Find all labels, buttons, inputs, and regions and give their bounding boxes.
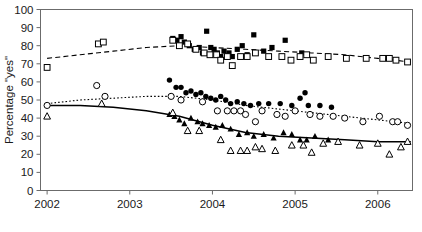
x-tick-label: 2006 <box>365 198 391 210</box>
data-point-open-square <box>310 57 316 63</box>
data-point-filled-triangle <box>188 115 194 121</box>
data-point-open-square <box>288 57 294 63</box>
data-point-open-triangle <box>98 100 105 106</box>
data-point-open-triangle <box>320 140 327 146</box>
x-tick-label: 2003 <box>117 198 143 210</box>
data-point-open-square <box>218 57 224 63</box>
data-point-open-triangle <box>244 147 251 153</box>
y-tick-label: 50 <box>21 94 34 106</box>
data-point-open-square <box>343 55 349 61</box>
data-point-open-square <box>380 55 386 61</box>
data-point-filled-square <box>261 49 266 54</box>
data-point-open-triangle <box>300 142 307 148</box>
trend-lines <box>47 46 411 142</box>
data-point-filled-triangle <box>280 129 286 135</box>
data-point-open-triangle <box>356 142 363 148</box>
data-point-open-triangle <box>386 151 393 157</box>
y-tick-label: 60 <box>21 76 34 88</box>
chart-figure: 0102030405060708090100 20022003200420052… <box>0 0 422 232</box>
data-point-open-circle <box>360 119 366 125</box>
data-point-open-square <box>176 43 182 49</box>
data-point-open-circle <box>178 97 184 103</box>
data-point-open-square <box>325 54 331 60</box>
data-point-open-circle <box>330 113 336 119</box>
y-tick-label: 80 <box>21 40 34 52</box>
data-point-filled-circle <box>278 101 283 106</box>
data-point-filled-square <box>178 34 183 39</box>
data-point-filled-circle <box>208 95 213 100</box>
data-point-open-circle <box>102 93 108 99</box>
data-point-filled-circle <box>193 92 198 97</box>
y-axis-title: Percentage "yes" <box>3 56 15 144</box>
x-axis-ticks: 20022003200420052006 <box>34 191 390 210</box>
x-tick-label: 2005 <box>282 198 308 210</box>
data-point-filled-circle <box>241 101 246 106</box>
data-point-filled-triangle <box>219 122 225 128</box>
y-tick-label: 100 <box>14 4 33 16</box>
data-point-open-circle <box>395 119 401 125</box>
data-point-open-circle <box>199 99 205 105</box>
data-point-open-square <box>279 54 285 60</box>
y-tick-label: 40 <box>21 112 34 124</box>
data-point-open-triangle <box>272 147 279 153</box>
y-tick-label: 20 <box>21 148 34 160</box>
data-point-filled-circle <box>256 101 261 106</box>
data-point-open-circle <box>224 108 230 114</box>
data-point-open-circle <box>242 111 248 117</box>
data-point-filled-circle <box>235 99 240 104</box>
data-point-open-square <box>266 54 272 60</box>
data-point-open-square <box>224 54 230 60</box>
data-point-filled-square <box>269 45 274 50</box>
data-point-open-triangle <box>184 127 191 133</box>
data-point-filled-square <box>204 29 209 34</box>
data-point-open-triangle <box>308 149 315 155</box>
y-axis-ticks: 0102030405060708090100 <box>14 4 40 197</box>
data-point-open-square <box>100 39 106 45</box>
data-point-open-triangle <box>252 143 259 149</box>
data-point-filled-square <box>235 47 240 52</box>
y-tick-label: 70 <box>21 58 34 70</box>
data-point-filled-circle <box>317 103 322 108</box>
data-point-open-square <box>386 55 392 61</box>
data-point-open-circle <box>259 108 265 114</box>
data-point-filled-circle <box>302 90 307 95</box>
data-point-open-circle <box>292 108 298 114</box>
data-point-open-circle <box>317 113 323 119</box>
data-point-filled-circle <box>167 77 172 82</box>
data-point-filled-circle <box>223 97 228 102</box>
data-point-open-circle <box>342 115 348 121</box>
y-tick-label: 30 <box>21 130 34 142</box>
data-point-open-square <box>363 55 369 61</box>
data-point-open-triangle <box>217 136 224 142</box>
data-point-open-triangle <box>44 113 51 119</box>
data-point-open-circle <box>231 108 237 114</box>
data-point-filled-circle <box>297 95 302 100</box>
data-point-open-circle <box>252 119 258 125</box>
data-point-open-square <box>304 52 310 58</box>
data-point-filled-circle <box>228 101 233 106</box>
data-point-filled-circle <box>329 105 334 110</box>
x-tick-label: 2002 <box>34 198 60 210</box>
data-point-open-circle <box>282 113 288 119</box>
data-point-open-square <box>170 37 176 43</box>
data-point-open-square <box>244 54 250 60</box>
data-point-open-triangle <box>227 147 234 153</box>
data-point-open-square <box>405 59 411 65</box>
x-tick-label: 2004 <box>200 198 226 210</box>
data-point-open-circle <box>274 111 280 117</box>
data-point-filled-circle <box>213 97 218 102</box>
y-tick-label: 10 <box>21 166 34 178</box>
data-point-filled-triangle <box>312 133 318 139</box>
data-point-filled-triangle <box>289 131 295 137</box>
data-point-open-square <box>201 50 207 56</box>
data-point-filled-square <box>283 38 288 43</box>
data-point-filled-circle <box>306 103 311 108</box>
data-point-filled-circle <box>173 85 178 90</box>
data-point-filled-square <box>240 43 245 48</box>
data-point-open-triangle <box>288 142 295 148</box>
data-point-open-circle <box>44 102 50 108</box>
data-point-filled-circle <box>198 90 203 95</box>
data-point-filled-circle <box>178 85 183 90</box>
data-point-open-circle <box>404 122 410 128</box>
data-point-open-circle <box>168 93 174 99</box>
